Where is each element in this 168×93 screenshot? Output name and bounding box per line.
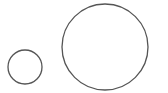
- diagram-canvas: [0, 0, 168, 93]
- large-circle: [62, 4, 148, 90]
- small-circle: [8, 50, 42, 84]
